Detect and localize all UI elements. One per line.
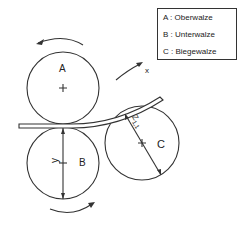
center-cross-a [59, 84, 67, 92]
legend-item-c: C : Biegewalze [163, 46, 236, 63]
arrowhead-b [88, 202, 95, 208]
legend-item-a: A : Oberwalze [163, 12, 236, 29]
arrowhead-z-bottom [157, 169, 161, 175]
arrowhead-y-bottom [61, 193, 65, 199]
arrowhead-a [36, 39, 44, 45]
dimension-x-label: x [145, 66, 149, 75]
arrowhead-y-top [61, 128, 65, 134]
rotation-arrow-b [50, 204, 92, 213]
roller-b-label: B [79, 157, 86, 168]
rotation-arrow-a [38, 38, 83, 45]
roller-c-label: C [157, 138, 165, 150]
roller-a-label: A [59, 63, 66, 74]
arrowhead-feed [136, 62, 143, 67]
feed-arrow [116, 64, 140, 80]
legend-item-b: B : Unterwalze [163, 29, 236, 46]
dimension-y-label: y [49, 158, 60, 163]
legend-box: A : Oberwalze B : Unterwalze C : Biegewa… [157, 8, 237, 60]
